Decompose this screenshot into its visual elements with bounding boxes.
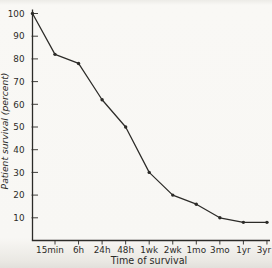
y-tick-label: 50 bbox=[13, 122, 25, 132]
chart-plot-group: 10203040506070809010015min6h24h48h1wk2wk… bbox=[8, 9, 272, 255]
x-tick-label: 1yr bbox=[236, 245, 251, 255]
figure-page: 10203040506070809010015min6h24h48h1wk2wk… bbox=[0, 0, 272, 268]
data-point bbox=[124, 125, 127, 128]
y-tick-label: 20 bbox=[13, 190, 25, 200]
data-point bbox=[31, 12, 34, 15]
data-point bbox=[242, 221, 245, 224]
y-tick-label: 80 bbox=[13, 54, 25, 64]
x-tick-label: 3mo bbox=[210, 245, 230, 255]
survival-line-chart: 10203040506070809010015min6h24h48h1wk2wk… bbox=[0, 0, 272, 268]
y-tick-label: 70 bbox=[13, 77, 25, 87]
y-tick-label: 40 bbox=[13, 145, 25, 155]
data-point bbox=[171, 193, 174, 196]
x-tick-label: 48h bbox=[117, 245, 134, 255]
data-point bbox=[195, 202, 198, 205]
x-tick-label: 1mo bbox=[187, 245, 207, 255]
x-axis-title: Time of survival bbox=[110, 255, 187, 266]
data-point bbox=[100, 98, 103, 101]
x-tick-label: 1wk bbox=[140, 245, 159, 255]
x-tick-label: 2wk bbox=[164, 245, 183, 255]
x-tick-label: 6h bbox=[73, 245, 84, 255]
data-point bbox=[53, 53, 56, 56]
x-tick-label: 15min bbox=[36, 245, 64, 255]
y-axis-title: Patient survival (percent) bbox=[0, 73, 10, 190]
data-point bbox=[77, 62, 80, 65]
x-tick-label: 24h bbox=[94, 245, 111, 255]
data-point bbox=[148, 171, 151, 174]
x-tick-label: 3yr bbox=[257, 245, 272, 255]
survival-line bbox=[33, 14, 267, 223]
y-tick-label: 100 bbox=[8, 9, 25, 19]
y-tick-label: 90 bbox=[13, 31, 25, 41]
y-tick-label: 60 bbox=[13, 100, 25, 110]
y-tick-label: 30 bbox=[13, 168, 25, 178]
y-tick-label: 10 bbox=[13, 213, 25, 223]
data-point bbox=[265, 221, 268, 224]
data-point bbox=[218, 216, 221, 219]
